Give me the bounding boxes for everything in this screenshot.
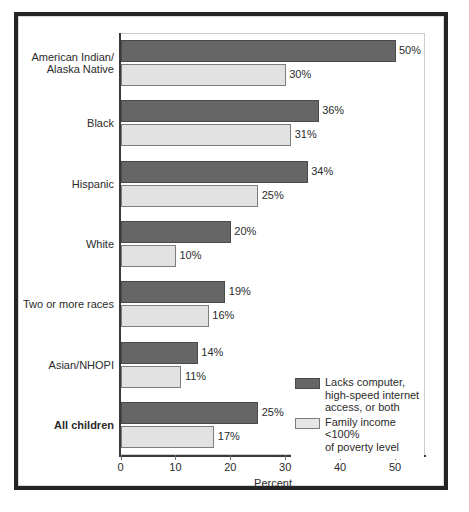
bar-value-label-s0-c5: 14% — [201, 346, 223, 358]
bar-s0-c1 — [121, 100, 319, 122]
category-label-0: American Indian/ Alaska Native — [31, 51, 114, 75]
bar-s1-c5 — [121, 366, 181, 388]
category-label-6: All children — [54, 419, 114, 431]
bar-value-label-s1-c6: 17% — [218, 430, 240, 442]
bar-value-label-s1-c4: 16% — [212, 309, 234, 321]
legend-item-1: Family income <100% of poverty level — [295, 416, 422, 454]
bar-s1-c6 — [121, 426, 214, 448]
x-tick-label-10: 10 — [169, 461, 181, 473]
category-label-2: Hispanic — [72, 178, 114, 190]
category-label-5: Asian/NHOPI — [49, 359, 114, 371]
x-tick-label-50: 50 — [389, 461, 401, 473]
bar-s1-c2 — [121, 185, 258, 207]
category-label-4: Two or more races — [23, 298, 114, 310]
bar-value-label-s0-c6: 25% — [262, 406, 284, 418]
legend-label-0: Lacks computer, high-speed internet acce… — [325, 376, 419, 414]
category-label-3: White — [86, 238, 114, 250]
x-tick-mark-10 — [175, 455, 176, 460]
bar-s0-c5 — [121, 342, 198, 364]
bar-chart: 01020304050 American Indian/ Alaska Nati… — [0, 0, 469, 512]
bar-s1-c0 — [121, 64, 286, 86]
x-tick-mark-0 — [121, 455, 122, 460]
legend-swatch-dark-icon — [295, 378, 320, 389]
bar-value-label-s1-c2: 25% — [262, 189, 284, 201]
x-tick-label-0: 0 — [117, 461, 123, 473]
x-tick-mark-20 — [230, 455, 231, 460]
legend-item-0: Lacks computer, high-speed internet acce… — [295, 376, 422, 414]
bar-s1-c3 — [121, 245, 176, 267]
bar-value-label-s0-c3: 20% — [234, 225, 256, 237]
legend-label-1: Family income <100% of poverty level — [325, 416, 422, 454]
bar-s0-c3 — [121, 221, 231, 243]
bar-s1-c1 — [121, 124, 291, 146]
bar-value-label-s1-c3: 10% — [179, 249, 201, 261]
bar-value-label-s0-c4: 19% — [229, 285, 251, 297]
bar-value-label-s1-c1: 31% — [295, 128, 317, 140]
y-axis-line — [119, 33, 121, 455]
bar-value-label-s0-c0: 50% — [399, 44, 421, 56]
x-tick-label-20: 20 — [224, 461, 236, 473]
bar-value-label-s0-c2: 34% — [311, 165, 333, 177]
category-label-1: Black — [87, 117, 114, 129]
bar-s0-c0 — [121, 40, 396, 62]
bar-value-label-s1-c0: 30% — [289, 68, 311, 80]
x-tick-label-40: 40 — [334, 461, 346, 473]
figure-root: 01020304050 American Indian/ Alaska Nati… — [0, 0, 469, 512]
x-axis-title: Percent — [254, 477, 292, 489]
bar-s1-c4 — [121, 305, 209, 327]
x-tick-label-30: 30 — [279, 461, 291, 473]
bar-value-label-s0-c1: 36% — [322, 104, 344, 116]
bar-value-label-s1-c5: 11% — [185, 370, 206, 382]
x-tick-mark-30 — [285, 455, 286, 460]
bar-s0-c6 — [121, 402, 258, 424]
legend-swatch-light-icon — [295, 418, 320, 429]
chart-legend: Lacks computer, high-speed internet acce… — [291, 372, 424, 459]
bar-s0-c2 — [121, 161, 308, 183]
bar-s0-c4 — [121, 281, 225, 303]
